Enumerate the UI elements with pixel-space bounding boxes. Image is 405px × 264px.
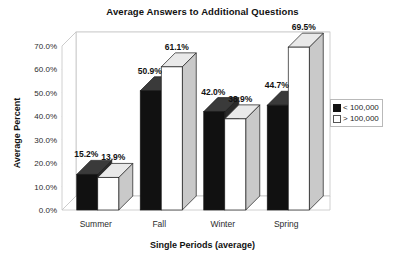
x-category-label: Fall — [152, 219, 166, 229]
legend: < 100,000 > 100,000 — [330, 99, 383, 127]
x-category-label: Summer — [80, 219, 112, 229]
y-tick-label: 60.0% — [34, 65, 57, 74]
value-label: 61.1% — [165, 42, 190, 52]
value-label: 50.9% — [138, 66, 163, 76]
y-axis-ticks: 70.0%60.0%50.0%40.0%30.0%20.0%10.0%0.0% — [34, 42, 57, 215]
value-label: 44.7% — [265, 80, 290, 90]
legend-label-large: > 100,000 — [343, 114, 379, 124]
y-tick-label: 0.0% — [39, 206, 57, 215]
bar-front — [161, 67, 182, 210]
legend-item-large[interactable]: > 100,000 — [333, 113, 379, 124]
x-category-label: Winter — [210, 219, 235, 229]
y-tick-label: 20.0% — [34, 159, 57, 168]
y-tick-label: 40.0% — [34, 112, 57, 121]
hollow-square-icon — [333, 115, 341, 123]
bar-front — [267, 105, 288, 210]
value-label: 69.5% — [292, 22, 317, 32]
y-tick-label: 10.0% — [34, 183, 57, 192]
value-label: 38.9% — [228, 94, 253, 104]
legend-label-small: < 100,000 — [343, 103, 379, 113]
x-category-label: Spring — [274, 219, 299, 229]
bar-front — [204, 112, 225, 210]
bar-front — [140, 91, 161, 210]
filled-square-icon — [333, 104, 341, 112]
chart-container: Average Answers to Additional Questions … — [0, 0, 405, 264]
value-label: 15.2% — [74, 149, 99, 159]
bar-winter-large — [225, 105, 260, 210]
legend-item-small[interactable]: < 100,000 — [333, 102, 379, 113]
bar-side — [309, 33, 323, 210]
value-label: 42.0% — [201, 87, 226, 97]
y-tick-label: 50.0% — [34, 89, 57, 98]
y-tick-label: 70.0% — [34, 42, 57, 51]
bar-front — [225, 119, 246, 210]
left-wall — [62, 32, 76, 210]
bar-fall-large — [161, 53, 196, 210]
y-tick-label: 30.0% — [34, 136, 57, 145]
bar-front — [288, 47, 309, 210]
x-axis-categories: SummerFallWinterSpring — [80, 219, 299, 229]
bar-spring-large — [288, 33, 323, 210]
plot-area: 70.0%60.0%50.0%40.0%30.0%20.0%10.0%0.0% … — [0, 0, 405, 264]
value-label: 13.9% — [101, 152, 126, 162]
bar-front — [98, 177, 119, 210]
bar-side — [246, 105, 260, 210]
bar-front — [77, 174, 98, 210]
bar-side — [182, 53, 196, 210]
